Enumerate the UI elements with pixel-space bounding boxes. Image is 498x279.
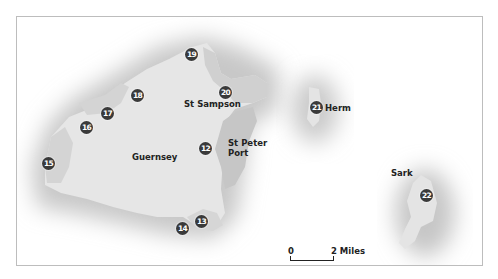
scale-start-label: 0: [288, 246, 294, 256]
place-label-st-peter-port-line2: Port: [228, 148, 267, 158]
map-frame: Guernsey Herm Sark St Sampson St Peter P…: [16, 16, 483, 266]
island-label-guernsey: Guernsey: [132, 152, 177, 162]
map-marker-18[interactable]: 18: [131, 89, 144, 102]
map-marker-12[interactable]: 12: [199, 142, 212, 155]
island-label-herm: Herm: [325, 103, 351, 113]
map-marker-13[interactable]: 13: [195, 215, 208, 228]
scale-bar-line: [290, 256, 334, 261]
map-marker-20[interactable]: 20: [219, 86, 232, 99]
map-marker-22[interactable]: 22: [420, 189, 433, 202]
scale-end-label: 2 Miles: [331, 246, 365, 256]
map-marker-16[interactable]: 16: [80, 121, 93, 134]
place-label-st-peter-port-line1: St Peter: [228, 138, 267, 148]
map-marker-19[interactable]: 19: [185, 48, 198, 61]
place-label-st-peter-port: St Peter Port: [228, 138, 267, 158]
map-marker-14[interactable]: 14: [176, 222, 189, 235]
island-label-sark: Sark: [391, 168, 413, 178]
map-marker-21[interactable]: 21: [310, 101, 323, 114]
map-marker-17[interactable]: 17: [101, 107, 114, 120]
place-label-st-sampson: St Sampson: [184, 99, 241, 109]
map-marker-15[interactable]: 15: [42, 157, 55, 170]
